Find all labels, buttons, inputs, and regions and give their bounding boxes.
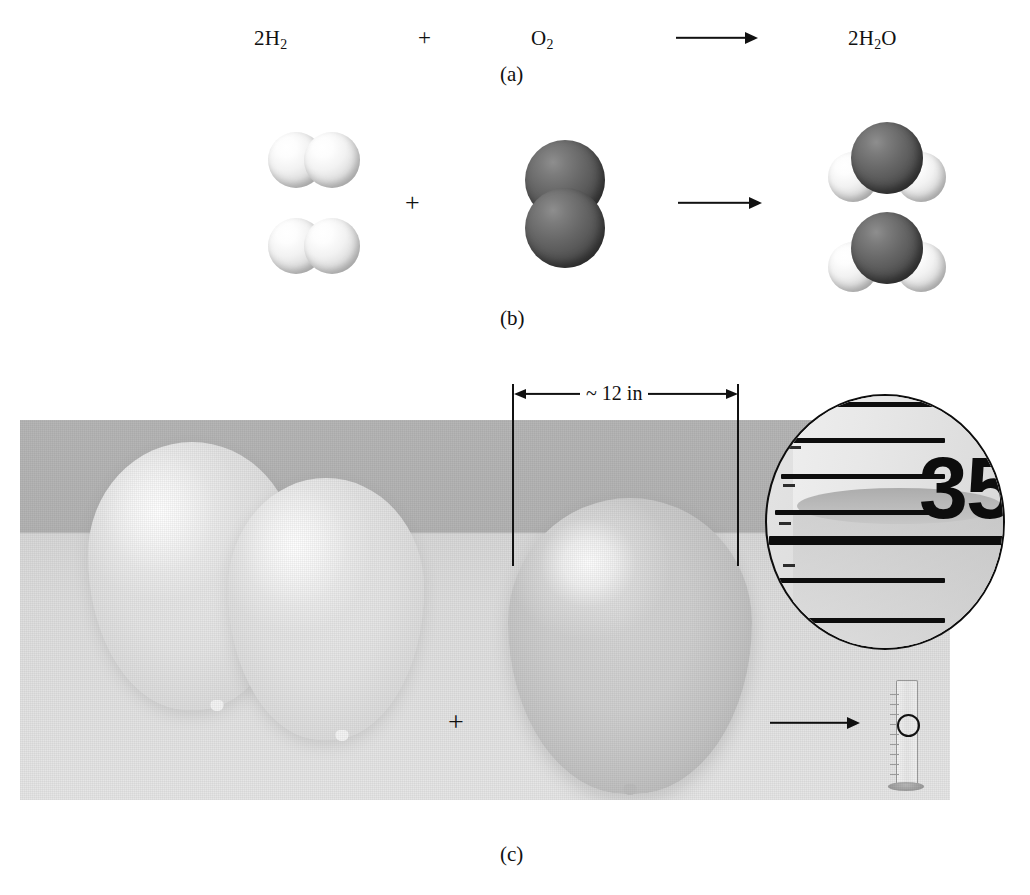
panel-label-b: (b): [500, 306, 525, 331]
magnifier-source-marker-icon: [897, 714, 920, 737]
hydrogen-molecule-2: [268, 218, 360, 274]
equation-product-water: 2H2O: [848, 26, 897, 53]
hydrogen-molecule-1: [268, 132, 360, 188]
hydrogen-balloon-2: [228, 478, 424, 740]
panel-label-c: (c): [500, 842, 523, 867]
dimension-label: ~ 12 in: [580, 382, 648, 405]
water-molecule-2: [828, 212, 946, 290]
balloon-neck: [622, 784, 639, 797]
equation-reactant-hydrogen: 2H2: [254, 26, 287, 53]
cylinder-graduation: [890, 694, 899, 695]
panel-b-plus-sign: +: [405, 190, 420, 216]
equation-reactant-oxygen: O2: [531, 26, 553, 53]
cylinder-graduation: [890, 734, 899, 735]
hydrogen-atom: [304, 218, 360, 274]
magnified-edge-ticks: [789, 446, 809, 586]
water-molecule-1: [828, 122, 946, 200]
magnified-scale-reading: 35: [919, 448, 1005, 527]
oxygen-atom: [851, 212, 923, 284]
cylinder-graduation: [890, 764, 899, 765]
equation-plus-sign: +: [418, 26, 431, 49]
cylinder-base: [888, 782, 924, 791]
hydrogen-atom: [304, 132, 360, 188]
panel-c-reaction-arrow: [770, 715, 860, 731]
cylinder-graduation: [890, 704, 899, 705]
magnified-graduation: [807, 618, 945, 623]
oxygen-atom: [525, 188, 605, 268]
oxygen-atom: [851, 122, 923, 194]
panel-b: + (b): [0, 100, 1030, 350]
oxygen-balloon: [508, 498, 752, 794]
panel-label-a: (a): [500, 62, 523, 87]
panel-c-plus-sign: +: [448, 708, 464, 736]
balloon-body: [228, 478, 424, 740]
balloon-neck: [208, 700, 225, 713]
panel-c: +: [0, 350, 1030, 895]
magnified-graduation: [825, 402, 945, 407]
panel-a: 2H2 + O2 2H2O (a): [0, 0, 1030, 100]
cylinder-graduation: [890, 714, 899, 715]
equation-reaction-arrow-a: [676, 30, 758, 46]
chemical-reaction-figure: 2H2 + O2 2H2O (a) +: [0, 0, 1030, 895]
cylinder-graduation: [890, 774, 899, 775]
cylinder-graduation: [890, 754, 899, 755]
dimension-arrowhead-left: [514, 389, 526, 399]
balloon-body: [508, 498, 752, 794]
graduated-cylinder: [888, 680, 924, 792]
balloon-neck: [333, 730, 350, 743]
magnifier-inset: 35: [765, 394, 1005, 650]
panel-b-reaction-arrow: [678, 195, 762, 211]
dimension-tick-right: [737, 384, 739, 566]
dimension-tick-left: [512, 384, 514, 566]
oxygen-molecule: [525, 140, 605, 268]
cylinder-graduation: [890, 744, 899, 745]
dimension-arrowhead-right: [726, 389, 738, 399]
